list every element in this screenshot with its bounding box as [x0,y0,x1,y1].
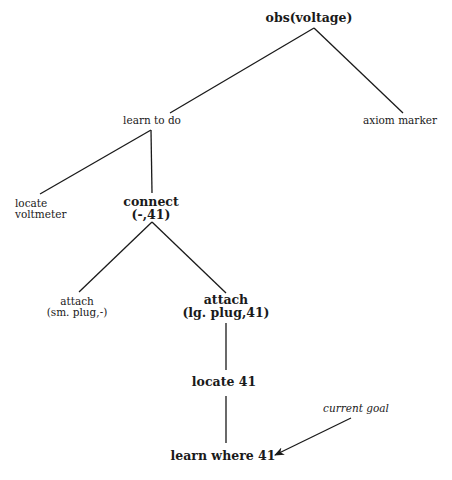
node-label: locate [15,198,66,209]
node-locate-41: locate 41 [192,376,256,389]
node-axiom-marker: axiom marker [363,115,437,126]
edge-obs-voltage-to-learn-to-do [170,28,314,113]
current-goal-label: current goal [323,403,389,414]
node-learn-to-do: learn to do [123,115,181,126]
edge-learn-to-do-to-connect [151,130,152,193]
node-connect: connect(-,41) [123,196,178,221]
node-learn-where-41: learn where 41 [171,450,276,463]
node-attach-lg-plug: attach(lg. plug,41) [182,294,269,319]
arrow-icon [275,418,351,455]
node-label: (lg. plug,41) [182,307,269,320]
node-label: learn to do [123,115,181,126]
edge-obs-voltage-to-axiom-marker [314,28,403,113]
edge-connect-to-attach-sm-plug [79,222,152,292]
node-label: axiom marker [363,115,437,126]
node-label: voltmeter [15,209,66,220]
node-label: (sm. plug,-) [47,307,108,318]
node-label: locate 41 [192,376,256,389]
node-attach-sm-plug: attach(sm. plug,-) [47,296,108,317]
node-label: (-,41) [123,209,178,222]
node-label: learn where 41 [171,450,276,463]
edge-connect-to-attach-lg-plug [152,222,226,293]
edge-learn-to-do-to-locate-voltmeter [40,130,151,194]
current-goal-annotation: current goal [323,403,389,414]
node-locate-voltmeter: locatevoltmeter [15,198,66,219]
current-goal-arrow [275,418,351,455]
node-obs-voltage: obs(voltage) [266,12,353,25]
node-label: attach [47,296,108,307]
node-label: obs(voltage) [266,12,353,25]
